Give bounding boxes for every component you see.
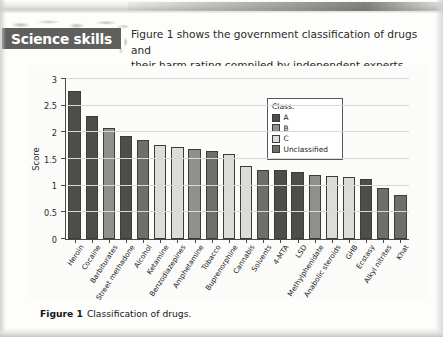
legend-items: ABCUnclassified [272,113,338,154]
x-axis-tick [177,239,178,243]
chart-legend: Class: ABCUnclassified [267,98,343,160]
bar [377,188,389,239]
legend-item: C [272,134,338,143]
bar [343,177,355,239]
bar [223,154,235,239]
y-axis-tick-label: 2 [52,128,57,138]
legend-swatch-icon [272,114,280,122]
y-axis-tick-label: 3 [52,75,57,85]
bar [68,91,80,239]
x-axis-tick [366,239,367,243]
x-axis-tick [246,239,247,243]
x-axis-tick [160,239,161,243]
grid-line [66,131,409,132]
x-axis-tick [263,239,264,243]
y-axis-tick [61,158,66,159]
bar [240,166,252,239]
science-skills-badge: Science skills [2,28,121,49]
science-skills-badge-label: Science skills [11,31,112,47]
bar [206,151,218,239]
y-axis-tick-label: 0 [52,235,57,245]
bar [274,170,286,239]
y-axis-tick-label: 2.5 [44,101,57,111]
figure-caption: Figure 1Classification of drugs. [40,308,191,319]
scan-artifact-band [128,2,443,11]
x-axis-tick [143,239,144,243]
page-edge-bottom [0,328,443,337]
legend-item-label: A [284,113,289,122]
legend-item-label: C [284,134,289,143]
y-axis-label: Score [31,147,41,170]
grid-line [66,185,409,186]
legend-swatch-icon [272,135,280,143]
x-axis-tick [75,239,76,243]
x-axis-tick [315,239,316,243]
grid-line [66,105,409,106]
figure-caption-text: Classification of drugs. [87,308,191,319]
y-axis-tick [61,105,66,106]
bar [86,116,98,239]
x-axis-tick [126,239,127,243]
x-axis-tick [229,239,230,243]
y-axis-tick-label: 1 [52,181,57,191]
science-skills-header: Science skills Figure 1 shows the govern… [0,14,443,58]
figure-caption-label: Figure 1 [40,308,83,319]
y-axis-tick-label: 0.5 [44,208,57,218]
page-edge-right [435,0,443,337]
x-axis-tick [280,239,281,243]
bar [257,170,269,239]
page-canvas: Science skills Figure 1 shows the govern… [0,0,443,337]
legend-item-label: Unclassified [284,145,328,154]
bar [120,136,132,239]
y-axis-tick [61,131,66,132]
grid-line [66,158,409,159]
y-axis-tick [61,211,66,212]
bar [103,128,115,239]
bar-series: HeroinCocaineBarbituratesStreet methadon… [66,79,409,239]
x-axis-tick [109,239,110,243]
legend-item: A [272,113,338,122]
bar [154,145,166,239]
x-axis-tick [195,239,196,243]
bar [291,172,303,239]
y-axis-tick-label: 1.5 [44,155,57,165]
x-axis-tick [349,239,350,243]
x-axis-tick [400,239,401,243]
figure-block: Score HeroinCocaineBarbituratesStreet me… [0,60,443,337]
bar [360,179,372,239]
bar [394,195,406,239]
chart-plot-area: Score HeroinCocaineBarbituratesStreet me… [65,79,409,240]
x-axis-tick [92,239,93,243]
legend-swatch-icon [272,145,280,153]
y-axis-tick [61,78,66,79]
bar [171,147,183,239]
y-axis-tick [61,238,66,239]
legend-item: Unclassified [272,145,338,154]
x-axis-tick [212,239,213,243]
y-axis-tick [61,185,66,186]
grid-line [66,211,409,212]
chart-figure: Score HeroinCocaineBarbituratesStreet me… [28,66,428,300]
page-edge-left [0,0,6,337]
intro-line-1: Figure 1 shows the government classifica… [131,27,433,58]
x-axis-tick [383,239,384,243]
x-axis-tick [298,239,299,243]
legend-title: Class: [272,102,338,111]
bar [137,140,149,239]
x-axis-tick [332,239,333,243]
bar [188,149,200,239]
grid-line [66,78,409,79]
